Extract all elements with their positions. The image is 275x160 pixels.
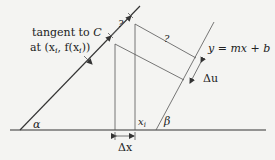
x-i-label: xi [138,116,146,129]
line-equation-label: y = mx + b [207,42,270,55]
question-mark-perpendicular: ? [164,33,170,44]
delta-u-arrow [190,62,201,83]
diagram-canvas: tangent to C at (xi, f(xi)) ? ? y = mx +… [0,0,275,160]
tangent-label-line-2: at (xi, f(xi)) [30,41,90,55]
delta-x-label: Δx [118,141,133,154]
parallel-line-lower [115,44,184,80]
beta-angle-label: β [163,115,170,128]
tangent-label-line-1: tangent to C [32,26,102,39]
question-mark-tangent: ? [118,18,124,29]
delta-u-label: Δu [203,72,218,85]
alpha-angle-label: α [33,118,41,131]
